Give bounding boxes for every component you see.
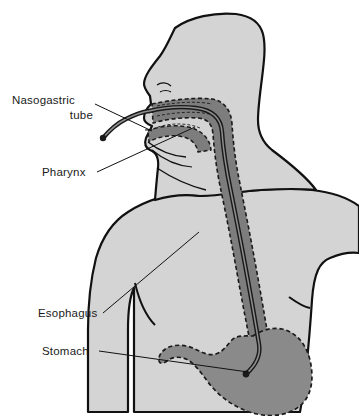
label-nasogastric-tube-line1: Nasogastric: [12, 94, 75, 106]
label-esophagus: Esophagus: [38, 307, 97, 319]
label-group: Nasogastric tube Pharynx Esophagus Stoma…: [12, 94, 97, 357]
label-stomach: Stomach: [42, 345, 89, 357]
anatomy-diagram: Nasogastric tube Pharynx Esophagus Stoma…: [0, 0, 359, 416]
tube-external-end: [100, 135, 106, 141]
label-nasogastric-tube-line2: tube: [70, 109, 93, 121]
diagram-canvas: Nasogastric tube Pharynx Esophagus Stoma…: [0, 0, 359, 416]
label-pharynx: Pharynx: [42, 166, 86, 178]
